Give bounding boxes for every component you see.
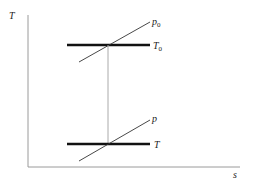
isobar-p0-label: p0 (151, 16, 161, 29)
isotherm-t-label: T (154, 139, 161, 150)
ts-diagram: T s T0 p0 T p (0, 0, 253, 181)
x-axis-label: s (233, 169, 237, 180)
isobar-p0 (79, 22, 150, 62)
isobar-p-label: p (151, 113, 157, 124)
isobar-p (79, 120, 150, 161)
y-axis-label: T (9, 10, 16, 21)
isotherm-t0-label: T0 (153, 40, 163, 53)
